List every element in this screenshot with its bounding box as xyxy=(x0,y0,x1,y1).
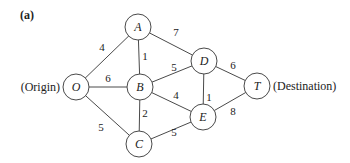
node-b: B xyxy=(127,74,153,100)
origin-label: (Origin) xyxy=(21,80,60,94)
node-label: A xyxy=(133,20,142,34)
edge-weight-o-b: 6 xyxy=(105,72,111,84)
node-d: D xyxy=(191,48,217,74)
edge-weight-e-t: 8 xyxy=(230,105,236,117)
destination-label: (Destination) xyxy=(273,79,336,93)
node-t: T xyxy=(244,73,270,99)
node-label: B xyxy=(136,80,144,94)
network-diagram: (a) 471566418255 ADOBTEC (Origin) (Desti… xyxy=(0,0,350,163)
edge-weight-a-b: 1 xyxy=(142,50,148,62)
node-o: O xyxy=(63,74,89,100)
edge-weight-b-d: 5 xyxy=(171,61,177,73)
edge-weight-d-e: 1 xyxy=(206,91,212,103)
node-c: C xyxy=(126,131,152,157)
node-a: A xyxy=(125,14,151,40)
nodes-layer: ADOBTEC xyxy=(63,14,270,157)
edge-weight-d-t: 6 xyxy=(230,59,236,71)
panel-label: (a) xyxy=(20,8,34,22)
node-label: C xyxy=(135,137,144,151)
edge-weight-o-c: 5 xyxy=(98,121,104,133)
node-label: D xyxy=(199,54,209,68)
node-label: O xyxy=(72,80,81,94)
edge-weight-b-e: 4 xyxy=(173,89,179,101)
node-e: E xyxy=(190,104,216,130)
edge-weight-c-e: 5 xyxy=(171,126,177,138)
edge-weight-b-c: 2 xyxy=(142,107,148,119)
node-label: E xyxy=(198,110,207,124)
edge-weight-a-d: 7 xyxy=(173,26,179,38)
edge-weight-o-a: 4 xyxy=(99,41,105,53)
